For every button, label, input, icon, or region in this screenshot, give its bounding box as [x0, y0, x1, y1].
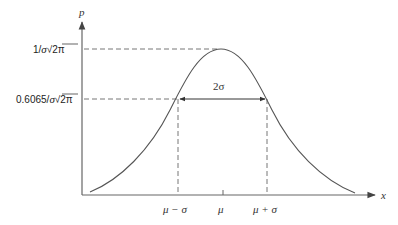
- svg-text:1/σ√2π: 1/σ√2π: [33, 43, 65, 55]
- x-tick-mu-minus-sigma: μ − σ: [162, 203, 187, 215]
- peak-level-label: 1/σ√2π: [33, 43, 78, 55]
- x-tick-mu-plus-sigma: μ + σ: [252, 203, 277, 215]
- gaussian-curve: [90, 49, 355, 193]
- y-axis-label: p: [78, 6, 85, 18]
- two-sigma-label: 2σ: [213, 80, 225, 92]
- svg-text:0.6065/σ√2π: 0.6065/σ√2π: [16, 93, 73, 105]
- normal-distribution-figure: p x 2σ 1/σ√2π 0.6065/σ√2π μ − σ μ μ + σ: [0, 0, 398, 225]
- x-axis-label: x: [380, 189, 386, 201]
- inflection-level-label: 0.6065/σ√2π: [16, 93, 78, 105]
- x-tick-mu: μ: [217, 203, 224, 215]
